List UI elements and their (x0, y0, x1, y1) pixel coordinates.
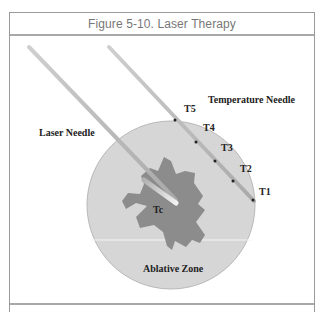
tc-label: Tc (153, 204, 164, 215)
sensor-t3-mark (214, 160, 217, 163)
sensor-t3-label: T3 (221, 142, 233, 153)
sensor-t1-mark (252, 199, 255, 202)
sensor-t5-label: T5 (184, 103, 196, 114)
sensor-t1-label: T1 (259, 186, 271, 197)
laser-needle-label: Laser Needle (39, 127, 95, 138)
sensor-t2-label: T2 (240, 163, 252, 174)
temperature-needle-label: Temperature Needle (208, 94, 295, 105)
sensor-t4-mark (195, 141, 198, 144)
sensor-t2-mark (232, 180, 235, 183)
ablative-zone-label: Ablative Zone (143, 263, 204, 274)
sensor-t5-mark (174, 119, 177, 122)
sensor-t4-label: T4 (203, 122, 215, 133)
